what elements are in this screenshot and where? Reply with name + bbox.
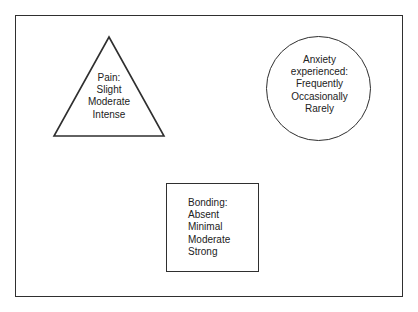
circle-heading-line-2: experienced:	[263, 66, 376, 78]
square-heading: Bonding:	[188, 197, 230, 209]
square-level-absent: Absent	[188, 209, 230, 221]
circle-level-frequently: Frequently	[263, 78, 376, 90]
triangle-shape-pain: Pain: Slight Moderate Intense	[52, 35, 166, 138]
triangle-level-slight: Slight	[52, 84, 166, 96]
circle-heading-line-1: Anxiety	[263, 54, 376, 66]
circle-label-block: Anxiety experienced: Frequently Occasion…	[263, 54, 376, 115]
square-label-block: Bonding: Absent Minimal Moderate Strong	[188, 197, 230, 258]
triangle-level-moderate: Moderate	[52, 96, 166, 108]
circle-level-occasionally: Occasionally	[263, 91, 376, 103]
circle-level-rarely: Rarely	[263, 103, 376, 115]
triangle-heading: Pain:	[52, 72, 166, 84]
square-level-strong: Strong	[188, 246, 230, 258]
square-level-minimal: Minimal	[188, 221, 230, 233]
figure-canvas: Pain: Slight Moderate Intense Anxiety ex…	[0, 0, 418, 312]
triangle-level-intense: Intense	[52, 109, 166, 121]
square-shape-bonding: Bonding: Absent Minimal Moderate Strong	[166, 183, 259, 272]
square-level-moderate: Moderate	[188, 234, 230, 246]
circle-shape-anxiety: Anxiety experienced: Frequently Occasion…	[266, 36, 371, 141]
triangle-label-block: Pain: Slight Moderate Intense	[52, 72, 166, 121]
